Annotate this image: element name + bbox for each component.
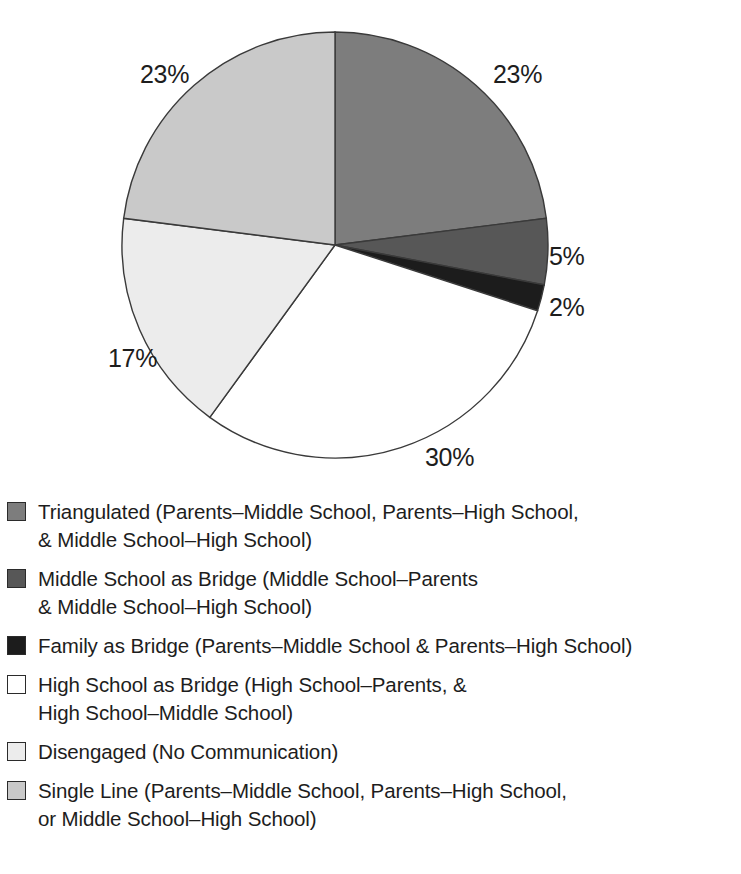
legend-swatch-triangulated — [7, 502, 26, 521]
pie-percent-label: 30% — [425, 443, 474, 472]
pie-chart-svg — [0, 0, 741, 490]
pie-slice-group — [122, 32, 548, 458]
legend-item-label: Family as Bridge (Parents–Middle School … — [38, 632, 632, 660]
legend-item[interactable]: Single Line (Parents–Middle School, Pare… — [0, 777, 741, 833]
legend-swatch-single-line — [7, 781, 26, 800]
legend-item[interactable]: Middle School as Bridge (Middle School–P… — [0, 565, 741, 621]
legend-swatch-family-as-bridge — [7, 636, 26, 655]
pie-percent-label: 5% — [549, 242, 585, 271]
legend-swatch-middle-school-as-bridge — [7, 569, 26, 588]
legend-item-label: Disengaged (No Communication) — [38, 738, 338, 766]
legend-item-label: High School as Bridge (High School–Paren… — [38, 671, 467, 727]
pie-percent-label: 23% — [140, 60, 189, 89]
chart-legend: Triangulated (Parents–Middle School, Par… — [0, 498, 741, 844]
legend-item[interactable]: High School as Bridge (High School–Paren… — [0, 671, 741, 727]
legend-swatch-disengaged — [7, 742, 26, 761]
legend-item[interactable]: Family as Bridge (Parents–Middle School … — [0, 632, 741, 660]
pie-chart-figure: 23%23%5%2%30%17% Triangulated (Parents–M… — [0, 0, 741, 874]
legend-item-label: Middle School as Bridge (Middle School–P… — [38, 565, 478, 621]
pie-percent-label: 17% — [108, 344, 157, 373]
legend-item[interactable]: Disengaged (No Communication) — [0, 738, 741, 766]
pie-percent-label: 2% — [549, 293, 585, 322]
legend-item-label: Single Line (Parents–Middle School, Pare… — [38, 777, 567, 833]
legend-swatch-high-school-as-bridge — [7, 675, 26, 694]
legend-item-label: Triangulated (Parents–Middle School, Par… — [38, 498, 579, 554]
pie-plot-area: 23%23%5%2%30%17% — [0, 0, 741, 490]
legend-item[interactable]: Triangulated (Parents–Middle School, Par… — [0, 498, 741, 554]
pie-percent-label: 23% — [493, 60, 542, 89]
